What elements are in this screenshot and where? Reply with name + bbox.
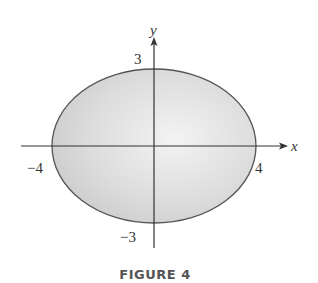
tick-x-neg: −4 [27,160,43,176]
tick-y-neg: −3 [120,229,136,245]
y-axis-label: y [148,22,157,38]
tick-x-pos: 4 [255,160,263,176]
figure-caption: FIGURE 4 [119,267,190,282]
tick-y-pos: 3 [134,51,142,67]
ellipse-figure: y x 3 −4 4 −3 FIGURE 4 [0,0,318,283]
x-axis-label: x [290,138,298,154]
